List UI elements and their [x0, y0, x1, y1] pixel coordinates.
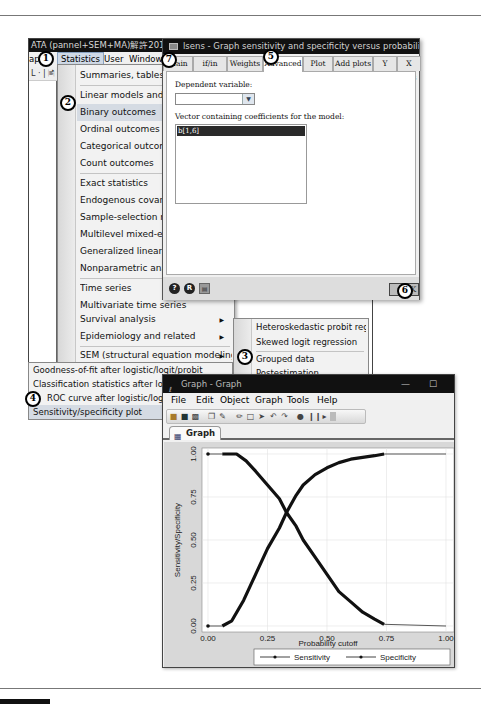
graph-editor-icon[interactable]: ✏ — [235, 412, 244, 421]
menu-file[interactable]: File — [171, 393, 186, 408]
menu-tools[interactable]: Tools — [287, 393, 309, 408]
minimize-button[interactable]: — — [401, 375, 410, 393]
dialog-footer: ? R ▤ OK — [163, 277, 419, 300]
graph-menubar: File Edit Object Graph Tools Help — [163, 393, 454, 408]
tab-graph[interactable]: ▦ Graph — [169, 426, 221, 440]
callout-5: 5 — [263, 49, 279, 65]
menu-item-skewed-logit[interactable]: Skewed logit regression — [256, 334, 366, 351]
svg-text:1.00: 1.00 — [438, 634, 454, 643]
vector-label: Vector containing coefficients for the m… — [175, 112, 344, 121]
chevron-down-icon[interactable]: ▼ — [242, 94, 254, 104]
dialog-body: Dependent variable: ▼ Vector containing … — [166, 71, 416, 275]
reset-icon[interactable]: R — [184, 283, 195, 294]
graph-tab-label: Graph — [186, 428, 215, 438]
callout-7: 7 — [161, 52, 177, 68]
svg-text:0.00: 0.00 — [189, 618, 198, 634]
submenu-arrow-icon: ▶ — [219, 328, 224, 345]
stata-toolbar[interactable]: L · | 🖹 — [29, 67, 57, 81]
tab-weights[interactable]: Weights — [227, 56, 263, 71]
page-marker — [0, 699, 50, 704]
lsens-dialog: lsens - Graph sensitivity and specificit… — [162, 38, 420, 300]
vector-listbox[interactable]: b[1,6] — [175, 124, 307, 204]
menu-edit[interactable]: Edit — [196, 393, 213, 408]
bottom-rule — [0, 688, 481, 689]
callout-2: 2 — [60, 95, 76, 111]
svg-text:0.75: 0.75 — [379, 634, 395, 643]
menu-item-label: Survival analysis — [80, 314, 156, 324]
svg-text:Probability cutoff: Probability cutoff — [299, 639, 359, 648]
binary-outcomes-submenu: Heteroskedastic probit regressi Skewed l… — [233, 318, 369, 378]
submenu-arrow-icon: ▶ — [219, 311, 224, 328]
menu-gutter — [58, 309, 76, 364]
menu-item-label: SEM (structural equation modeling) — [80, 350, 232, 360]
menu-object[interactable]: Object — [220, 393, 249, 408]
undo-icon[interactable]: ↶ — [269, 412, 278, 421]
copy-command-icon[interactable]: ▤ — [199, 283, 210, 294]
menu-item-label: Epidemiology and related — [80, 331, 195, 341]
tab-if-in[interactable]: if/in — [193, 56, 227, 71]
menu-graph[interactable]: Graph — [255, 393, 283, 408]
tab-plot[interactable]: Plot — [303, 56, 333, 71]
svg-text:0.75: 0.75 — [189, 489, 198, 505]
dependent-variable-select[interactable]: ▼ — [175, 93, 255, 105]
dependent-variable-label: Dependent variable: — [175, 80, 252, 89]
pause-icon[interactable]: ❙❙ — [308, 412, 317, 421]
menu-gutter — [234, 319, 252, 377]
rename-icon[interactable]: ✎ — [218, 412, 227, 421]
svg-text:Sensitivity: Sensitivity — [294, 653, 330, 662]
toolbar-overflow-icon[interactable] — [330, 412, 336, 421]
graph-tab-bar: ▦ Graph — [163, 426, 454, 440]
tab-x-axis[interactable]: X axis — [397, 56, 421, 71]
tab-add-plots[interactable]: Add plots — [333, 56, 373, 71]
menu-help[interactable]: Help — [317, 393, 338, 408]
callout-6: 6 — [397, 283, 413, 299]
tab-y-axis[interactable]: Y axis — [373, 56, 397, 71]
stata-left-pane — [29, 81, 57, 377]
maximize-button[interactable]: ☐ — [429, 375, 437, 393]
menu-item-survival[interactable]: Survival analysis▶ — [80, 311, 232, 328]
sensitivity-specificity-chart: 0.000.250.500.751.00 0.000.250.500.751.0… — [164, 442, 454, 667]
dialog-title: lsens - Graph sensitivity and specificit… — [183, 41, 419, 51]
copy-icon[interactable]: ❐ — [207, 412, 216, 421]
menu-item-epidemiology[interactable]: Epidemiology and related▶ — [80, 328, 232, 345]
play-icon[interactable]: ▸ — [320, 412, 329, 421]
svg-text:0.25: 0.25 — [189, 575, 198, 591]
plot-area: 0.000.250.500.751.00 0.000.250.500.751.0… — [164, 442, 454, 667]
statistics-menu-lower: Survival analysis▶ Epidemiology and rela… — [57, 309, 235, 365]
svg-text:0.00: 0.00 — [200, 634, 216, 643]
open-icon[interactable]: ■ — [169, 412, 178, 421]
graph-title-bar: ℓ Graph - Graph — ☐ — [163, 375, 454, 393]
graph-window: ℓ Graph - Graph — ☐ File Edit Object Gra… — [162, 374, 455, 668]
redo-icon[interactable]: ↷ — [280, 412, 289, 421]
record-icon[interactable]: ● — [296, 412, 305, 421]
callout-1: 1 — [38, 51, 54, 67]
vector-selected-item[interactable]: b[1,6] — [177, 126, 305, 136]
graph-window-title: Graph - Graph — [181, 379, 242, 389]
dialog-title-bar: lsens - Graph sensitivity and specificit… — [163, 39, 419, 54]
graph-toolbar: ■ ■ ▩ ❐ ✎ ✏ □ ➤ ↶ ↷ ● ❙❙ ▸ — [166, 409, 366, 424]
pointer-icon[interactable]: ➤ — [257, 412, 266, 421]
callout-4: 4 — [25, 391, 41, 407]
svg-text:Specificity: Specificity — [380, 653, 416, 662]
callout-3: 3 — [237, 349, 253, 365]
svg-text:0.50: 0.50 — [189, 532, 198, 548]
save-icon[interactable]: ■ — [180, 412, 189, 421]
properties-icon[interactable]: □ — [246, 412, 255, 421]
top-rule — [0, 15, 481, 16]
help-icon[interactable]: ? — [169, 283, 180, 294]
print-icon[interactable]: ▩ — [191, 412, 200, 421]
svg-text:0.25: 0.25 — [260, 634, 276, 643]
svg-text:Sensitivity/Specificity: Sensitivity/Specificity — [173, 503, 182, 577]
dialog-tabs: Main if/in Weights Advanced Plot Add plo… — [163, 56, 419, 71]
svg-text:1.00: 1.00 — [189, 446, 198, 462]
dialog-app-icon — [169, 43, 178, 50]
